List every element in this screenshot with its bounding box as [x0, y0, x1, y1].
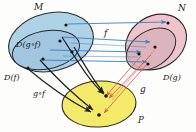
- dot-m-4: [41, 57, 44, 60]
- dot-m-3: [70, 50, 73, 53]
- label-domain-f: D(f): [3, 73, 20, 82]
- dot-n-3: [137, 52, 140, 55]
- dot-m-1: [64, 23, 67, 26]
- dot-n-1: [166, 21, 169, 24]
- label-domain-gof: D(g∘f): [15, 40, 41, 49]
- dot-p-1: [104, 94, 108, 98]
- label-set-p: P: [137, 115, 144, 125]
- dot-p-2: [97, 113, 101, 117]
- label-set-n: N: [177, 3, 187, 13]
- label-map-g: g: [140, 84, 146, 94]
- function-composition-diagram: M N P D(g∘f) D(f) D(g) f g g∘f: [0, 0, 196, 132]
- label-set-m: M: [33, 2, 44, 12]
- label-map-gof: g∘f: [33, 89, 47, 98]
- dot-m-5: [26, 66, 29, 69]
- dot-n-2: [153, 45, 156, 48]
- diagram-canvas: M N P D(g∘f) D(f) D(g) f g g∘f: [0, 0, 196, 132]
- dot-m-2: [58, 39, 61, 42]
- label-domain-g: D(g): [162, 73, 181, 82]
- dot-n-4: [146, 62, 149, 65]
